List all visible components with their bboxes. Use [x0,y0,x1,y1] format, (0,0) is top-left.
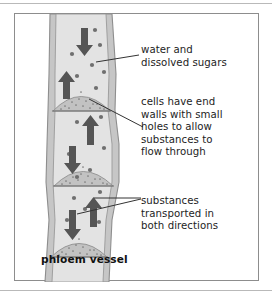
sap-particle [102,146,106,150]
sap-particle [65,218,69,222]
sap-particle [75,175,79,179]
figure-frame: water and dissolved sugars cells have en… [14,13,259,281]
callout-water-and-dissolved-sugars: water and dissolved sugars [141,44,253,69]
sap-particle [94,86,98,90]
bottom-divider-rule [0,290,272,291]
sap-particle [99,115,103,119]
callout-end-walls-with-holes: cells have end walls with small holes to… [141,96,253,159]
sap-particle [98,43,102,47]
sap-particle [102,70,106,74]
sap-particle [98,190,102,194]
figure-page: water and dissolved sugars cells have en… [0,0,272,297]
sap-particle [97,220,101,224]
sap-particle [72,196,76,200]
sap-particle [88,168,92,172]
sap-particle [90,63,94,67]
sap-particle [70,52,74,56]
callout-substances-transported-both-directions: substances transported in both direction… [141,195,253,233]
top-divider-rule [0,3,272,4]
sap-particle [75,74,79,78]
sap-particle [93,28,97,32]
figure-caption: phloem vessel [41,253,128,265]
sap-particle [75,120,79,124]
